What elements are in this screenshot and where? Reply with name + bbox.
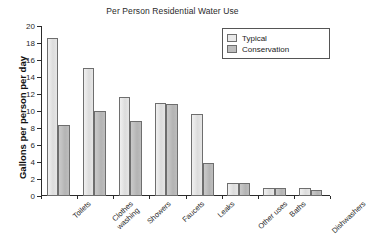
- bar-typical: [83, 68, 95, 196]
- y-tick-label: 18: [26, 39, 35, 48]
- legend-item-conservation: Conservation: [227, 44, 325, 54]
- bar-typical: [119, 97, 131, 196]
- y-tick-label: 12: [26, 90, 35, 99]
- x-axis-labels: ToiletsClothes washingShowersFaucetsLeak…: [41, 198, 330, 248]
- y-tick-label: 2: [31, 175, 35, 184]
- y-tick-label: 14: [26, 73, 35, 82]
- x-tick-label: Faucets: [182, 200, 207, 224]
- chart-title: Per Person Residential Water Use: [0, 6, 345, 16]
- bar-conservation: [166, 104, 178, 196]
- x-tick-label: Toilets: [72, 200, 93, 221]
- x-tick-label: Showers: [146, 200, 173, 226]
- y-tick-label: 6: [31, 141, 35, 150]
- legend-label-typical: Typical: [242, 34, 267, 43]
- bar-typical: [155, 103, 167, 196]
- legend-swatch-conservation: [227, 45, 237, 53]
- x-tick-label: Other uses: [257, 200, 290, 231]
- chart-legend: Typical Conservation: [222, 28, 330, 59]
- y-tick-label: 0: [31, 192, 35, 201]
- x-tick: [330, 196, 331, 199]
- y-tick-label: 4: [31, 158, 35, 167]
- bar-conservation: [94, 111, 106, 196]
- bar-conservation: [275, 188, 287, 197]
- x-tick-label: Leaks: [216, 200, 236, 220]
- bar-typical: [47, 38, 59, 196]
- legend-label-conservation: Conservation: [242, 45, 289, 54]
- x-tick-label: Clothes washing: [110, 200, 142, 231]
- bar-typical: [263, 188, 275, 197]
- bar-typical: [227, 183, 239, 196]
- y-tick-label: 10: [26, 107, 35, 116]
- bar-typical: [191, 114, 203, 196]
- bar-conservation: [130, 121, 142, 196]
- bar-conservation: [203, 163, 215, 196]
- legend-swatch-typical: [227, 34, 237, 42]
- x-tick-label: Dishwashers: [330, 200, 367, 235]
- bar-conservation: [58, 125, 70, 196]
- y-tick-label: 8: [31, 124, 35, 133]
- bar-conservation: [311, 190, 323, 196]
- x-tick-label: Baths: [288, 200, 308, 219]
- y-tick-label: 16: [26, 56, 35, 65]
- bar-conservation: [239, 183, 251, 196]
- legend-item-typical: Typical: [227, 33, 325, 43]
- y-tick-label: 20: [26, 22, 35, 31]
- bar-typical: [299, 188, 311, 197]
